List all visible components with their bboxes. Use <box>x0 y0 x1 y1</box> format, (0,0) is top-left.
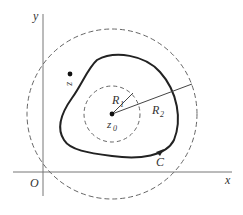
point-z <box>68 72 73 77</box>
r1-label: R 1 <box>111 93 124 109</box>
svg-text:z: z <box>106 118 112 130</box>
contour-label: C <box>156 155 165 169</box>
x-axis-label: x <box>224 173 231 187</box>
r2-label: R 2 <box>151 103 164 119</box>
svg-text:z: z <box>65 81 76 86</box>
svg-text:1: 1 <box>120 100 124 109</box>
origin-label: O <box>30 176 39 190</box>
svg-text:R: R <box>111 93 120 107</box>
svg-text:0: 0 <box>113 124 117 133</box>
center-label: z 0 <box>106 118 117 133</box>
center-point-z0 <box>110 112 115 117</box>
point-z-label: z <box>65 81 76 86</box>
diagram-canvas: y x O C z 0 z R 1 R 2 <box>0 0 243 215</box>
svg-text:2: 2 <box>160 110 164 119</box>
svg-text:R: R <box>151 103 160 117</box>
y-axis-label: y <box>32 9 39 23</box>
